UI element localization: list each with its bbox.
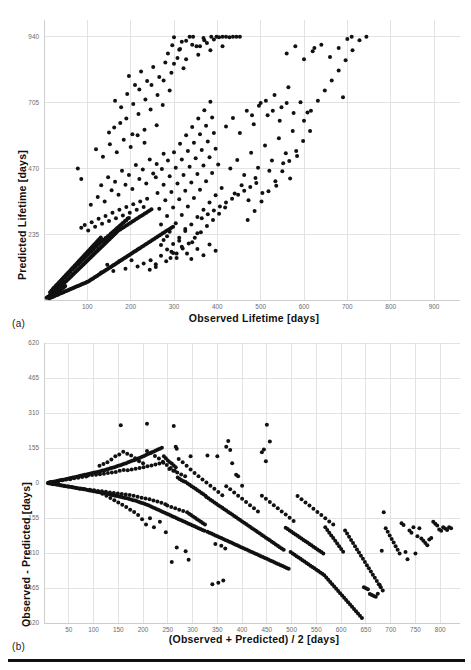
svg-text:620: 620 [28,339,39,346]
svg-text:400: 400 [237,626,248,633]
svg-text:650: 650 [361,626,372,633]
svg-text:100: 100 [82,303,93,310]
figure-container: 100200300400500600700800900235470705940 … [0,0,471,670]
scatter-panel-a: 100200300400500600700800900235470705940 … [0,0,471,335]
svg-text:250: 250 [162,626,173,633]
footer-divider-rule [8,659,465,662]
svg-text:500: 500 [286,626,297,633]
panel-b-x-axis-label: (Observed + Predicted) / 2 [days] [44,633,464,645]
svg-text:200: 200 [125,303,136,310]
svg-text:940: 940 [28,33,39,40]
gridlines [44,20,460,300]
panel-a-y-axis-label: Predicted Lifetime [days] [16,150,28,280]
panel-a-x-axis-label: Observed Lifetime [days] [44,312,464,324]
svg-text:155: 155 [28,444,39,451]
svg-text:705: 705 [28,99,39,106]
svg-text:600: 600 [299,303,310,310]
svg-text:450: 450 [262,626,273,633]
svg-text:235: 235 [28,231,39,238]
svg-text:400: 400 [212,303,223,310]
svg-text:50: 50 [65,626,73,633]
gridlines [44,343,460,623]
svg-text:310: 310 [28,409,39,416]
svg-text:0: 0 [35,479,39,486]
panel-a-tag: (a) [12,318,25,329]
panel-b-y-axis-label: Observed - Predicted [days] [20,482,32,627]
svg-text:550: 550 [311,626,322,633]
svg-text:300: 300 [187,626,198,633]
svg-text:750: 750 [410,626,421,633]
svg-text:900: 900 [429,303,440,310]
svg-text:800: 800 [435,626,446,633]
data-points [46,422,453,620]
svg-text:350: 350 [212,626,223,633]
tick-labels: 100200300400500600700800900235470705940 [28,33,439,310]
svg-text:150: 150 [113,626,124,633]
svg-text:700: 700 [385,626,396,633]
svg-text:800: 800 [385,303,396,310]
panel-b-tag: (b) [12,641,25,652]
svg-text:700: 700 [342,303,353,310]
scatter-plot-a-svg: 100200300400500600700800900235470705940 [0,0,471,335]
svg-text:600: 600 [336,626,347,633]
scatter-plot-b-svg: 5010015020025030035040045050055060065070… [0,335,471,670]
svg-text:500: 500 [255,303,266,310]
svg-text:465: 465 [28,374,39,381]
svg-text:470: 470 [28,165,39,172]
svg-text:200: 200 [138,626,149,633]
scatter-panel-b: 5010015020025030035040045050055060065070… [0,335,471,670]
svg-text:300: 300 [169,303,180,310]
data-points [45,35,369,301]
svg-text:100: 100 [88,626,99,633]
